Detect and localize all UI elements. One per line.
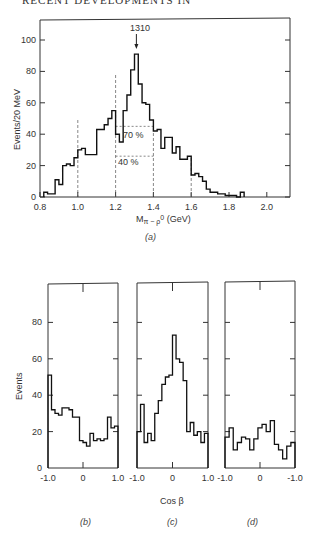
x-tick-label: 1.0: [72, 202, 85, 212]
x-axis-title-lower: Cos β: [160, 496, 184, 506]
histogram-panel-b: 020406080-1.001.0: [32, 283, 124, 483]
histogram-panel-a: 0204060801000.81.01.21.41.61.82.0: [21, 18, 290, 212]
panel-label-c: (c): [167, 517, 178, 527]
y-axis-title-a: Events/20 MeV: [12, 89, 22, 150]
pct70-label: 70 %: [123, 130, 144, 140]
histogram-line: [137, 335, 208, 468]
pct40-label: 40 %: [118, 157, 139, 167]
x-tick-label: 1.8: [223, 202, 236, 212]
x-tick-label: 0: [257, 473, 262, 483]
y-tick-label: 20: [32, 427, 42, 437]
x-tick-label: 1.2: [109, 202, 122, 212]
histogram-line: [48, 375, 118, 468]
y-tick-label: 40: [26, 129, 36, 139]
y-tick-label: 60: [32, 354, 42, 364]
panel-frame: [225, 281, 295, 468]
x-tick-label: 1.0: [202, 473, 215, 483]
x-tick-label: 0: [80, 473, 85, 483]
y-axis-title-lower: Events: [14, 372, 24, 400]
x-tick-label: 0.8: [34, 202, 47, 212]
peak-label: 1310: [130, 23, 150, 33]
x-tick-label: -1.0: [40, 473, 56, 483]
panel-label-d: (d): [247, 517, 258, 527]
x-tick-label: -1.0: [287, 473, 303, 483]
y-tick-label: 80: [32, 317, 42, 327]
y-tick-label: 0: [31, 192, 36, 202]
panel-label-a: (a): [145, 232, 156, 242]
y-tick-label: 40: [32, 390, 42, 400]
histogram-panel-d: -1.00-1.0: [217, 281, 303, 483]
x-axis-title-a: Mπ − ρ0 (GeV): [136, 214, 191, 226]
y-tick-label: 100: [21, 35, 36, 45]
y-tick-label: 80: [26, 66, 36, 76]
figure: 0204060801000.81.01.21.41.61.82.0 1310 7…: [0, 0, 318, 546]
y-tick-label: 20: [26, 161, 36, 171]
histogram-panel-c: -1.001.0: [129, 282, 214, 483]
y-tick-label: 60: [26, 98, 36, 108]
x-tick-label: 1.0: [112, 473, 125, 483]
arrow-head-icon: [134, 44, 138, 49]
x-tick-label: 0: [170, 473, 175, 483]
histogram-line: [225, 421, 295, 468]
y-tick-label: 0: [37, 463, 42, 473]
x-tick-label: 2.0: [261, 202, 274, 212]
x-tick-label: 1.4: [147, 202, 160, 212]
histogram-line: [44, 54, 244, 197]
x-tick-label: 1.6: [185, 202, 198, 212]
x-tick-label: -1.0: [217, 473, 233, 483]
x-tick-label: -1.0: [129, 473, 145, 483]
panel-label-b: (b): [80, 517, 91, 527]
